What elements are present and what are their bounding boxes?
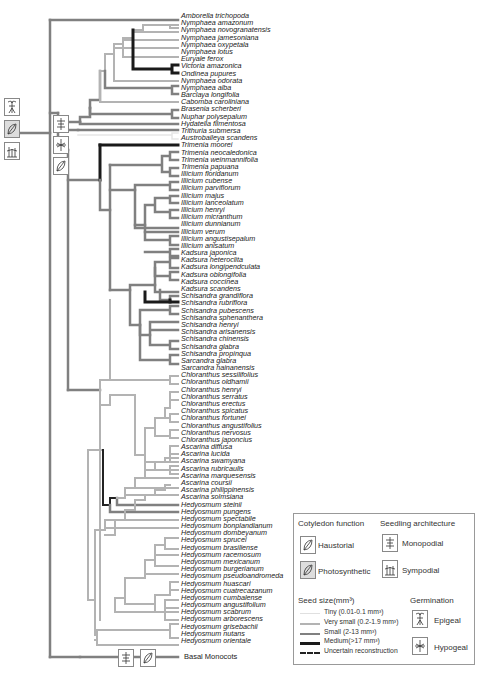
monopodial-architecture-icon <box>53 115 69 133</box>
epigeal-germination-icon <box>4 98 20 116</box>
tiny-seed-swatch <box>300 613 320 614</box>
photosynthetic-cotyledon-icon <box>4 120 20 138</box>
legend-monopodial: Monopodial <box>402 539 443 548</box>
legend-very-small: Very small (0.2-1.9 mm³) <box>324 618 398 625</box>
haustorial-cotyledon-icon <box>53 157 69 175</box>
legend-cotyledon-title: Cotyledon function <box>298 519 364 528</box>
legend-epigeal: Epigeal <box>434 616 461 625</box>
monopodial-architecture-icon-outgroup <box>118 649 134 667</box>
legend-photosynthetic: Photosynthetic <box>318 567 370 576</box>
haustorial-cotyledon-icon-outgroup <box>140 649 156 667</box>
legend-hypogeal: Hypogeal <box>434 643 468 652</box>
legend: Cotyledon function Haustorial Photosynth… <box>293 513 475 665</box>
monopodial-legend-icon <box>382 534 398 552</box>
sympodial-legend-icon <box>382 560 398 578</box>
medium-seed-swatch <box>300 642 320 645</box>
very-small-seed-swatch <box>300 623 320 625</box>
legend-seed-size-title: Seed size(mm³) <box>298 596 354 605</box>
legend-architecture-title: Seedling architecture <box>380 519 455 528</box>
sympodial-architecture-icon <box>4 142 20 160</box>
legend-haustorial: Haustorial <box>318 541 354 550</box>
haustorial-legend-icon <box>300 536 316 554</box>
small-seed-swatch <box>300 633 320 635</box>
legend-uncertain: Uncertain reconstruction <box>324 647 398 654</box>
legend-medium: Medium(>17 mm³) <box>324 637 380 644</box>
legend-small: Small (2-13 mm³) <box>324 628 377 635</box>
legend-sympodial: Sympodial <box>402 566 439 575</box>
legend-germination-title: Germination <box>410 596 454 605</box>
epigeal-legend-icon <box>412 610 428 628</box>
outgroup-label: Basal Monocots <box>184 653 237 661</box>
uncertain-swatch <box>300 652 320 654</box>
photosynthetic-legend-icon <box>300 561 316 579</box>
legend-tiny: Tiny (0.01-0.1 mm³) <box>324 608 383 615</box>
hypogeal-germination-icon <box>53 136 69 154</box>
hypogeal-legend-icon <box>412 637 428 655</box>
taxon-label: Hedyosmum orientale <box>181 637 251 645</box>
